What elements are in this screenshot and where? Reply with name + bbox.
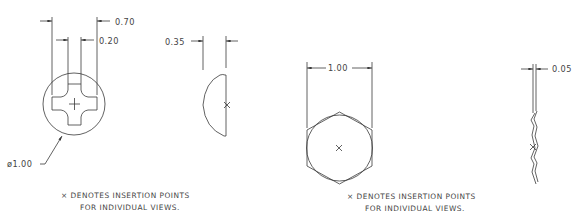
dimension-label-diameter: ø1.00 bbox=[7, 159, 32, 169]
dimension-label-0-05: 0.05 bbox=[552, 64, 572, 74]
dome-profile bbox=[203, 75, 226, 137]
dimension-label-0-35: 0.35 bbox=[165, 37, 185, 47]
screw-head-side-view: 0.35 bbox=[165, 36, 238, 136]
lock-washer-side-view: 0.05 bbox=[521, 64, 572, 184]
hex-head-top-view: 1.00 bbox=[307, 62, 373, 184]
note-line-2: FOR INDIVIDUAL VIEWS. bbox=[80, 203, 180, 212]
dimension-label-1-00: 1.00 bbox=[328, 63, 348, 73]
screw-head-top-view: 0.70 0.20 ø1.00 bbox=[7, 17, 135, 169]
note-left: × DENOTES INSERTION POINTS FOR INDIVIDUA… bbox=[61, 191, 190, 212]
note-right: × DENOTES INSERTION POINTS FOR INDIVIDUA… bbox=[347, 192, 476, 213]
dimension-label-0-20: 0.20 bbox=[99, 36, 119, 46]
dimension-label-0-70: 0.70 bbox=[115, 17, 135, 27]
note-line-1: × DENOTES INSERTION POINTS bbox=[347, 192, 476, 201]
note-line-1: × DENOTES INSERTION POINTS bbox=[61, 191, 190, 200]
note-line-2: FOR INDIVIDUAL VIEWS. bbox=[365, 204, 465, 213]
diameter-leader bbox=[40, 136, 62, 164]
cad-drawing-canvas: 0.70 0.20 ø1.00 0.35 1.00 bbox=[0, 0, 581, 224]
